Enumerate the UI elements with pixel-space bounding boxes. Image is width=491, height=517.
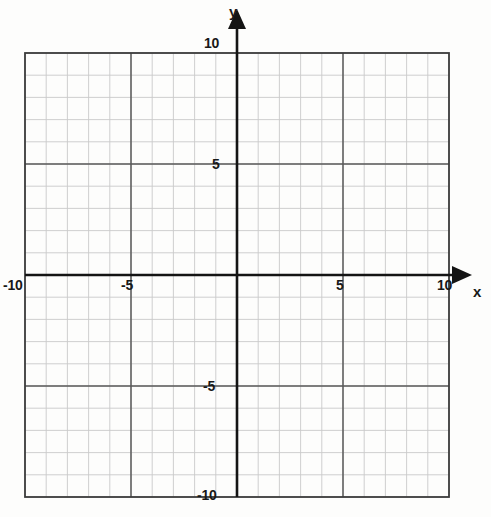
y-tick-label-plus5: 5 (212, 157, 220, 171)
y-tick-label-plus10: 10 (204, 36, 219, 50)
x-tick-label-minus10: -10 (3, 278, 23, 292)
y-axis-name: y (229, 4, 237, 19)
x-tick-label-plus5: 5 (336, 278, 344, 292)
y-tick-label-minus5: -5 (203, 379, 215, 393)
x-tick-label-plus10: 10 (437, 278, 452, 292)
y-tick-label-minus10: -10 (197, 488, 217, 502)
paper-background (0, 0, 491, 517)
x-tick-label-minus5: -5 (121, 278, 133, 292)
coordinate-plane (0, 0, 491, 517)
x-axis-name: x (473, 284, 481, 299)
coordinate-grid-figure: -10 -5 5 10 10 5 -5 -10 y x (0, 0, 491, 517)
